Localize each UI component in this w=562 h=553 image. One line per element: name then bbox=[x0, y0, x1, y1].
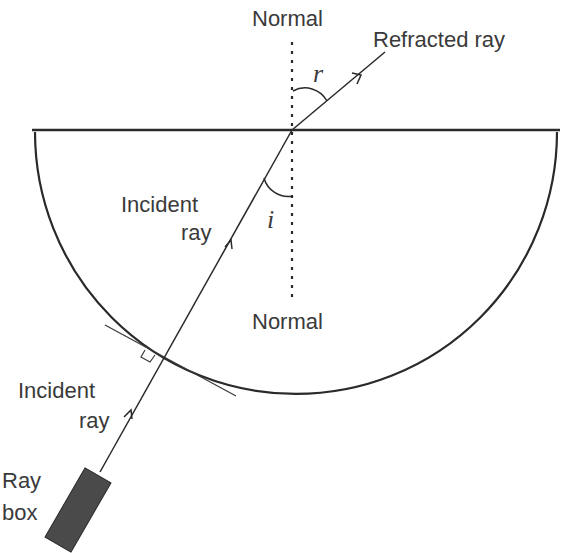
label-incident-ray-upper-2: ray bbox=[181, 220, 212, 245]
tangent-line bbox=[105, 325, 236, 396]
label-ray-box-2: box bbox=[2, 500, 37, 525]
label-incident-ray-lower-1: Incident bbox=[18, 378, 95, 403]
label-ray-box-1: Ray bbox=[2, 468, 41, 493]
incident-ray bbox=[100, 130, 292, 472]
label-normal-top: Normal bbox=[252, 6, 323, 31]
ray-box bbox=[45, 468, 111, 552]
block-curved-surface bbox=[35, 132, 557, 394]
refracted-ray bbox=[292, 52, 385, 130]
label-refracted-ray: Refracted ray bbox=[373, 27, 505, 52]
label-incident-ray-upper-1: Incident bbox=[121, 192, 198, 217]
label-incident-ray-lower-2: ray bbox=[79, 408, 110, 433]
angle-i-arc bbox=[264, 178, 293, 196]
angle-r-arc bbox=[293, 88, 327, 101]
refraction-diagram: Normal Normal Refracted ray Incident ray… bbox=[0, 0, 562, 553]
label-angle-r: r bbox=[313, 59, 324, 88]
label-angle-i: i bbox=[267, 205, 274, 234]
label-normal-bottom: Normal bbox=[252, 309, 323, 334]
